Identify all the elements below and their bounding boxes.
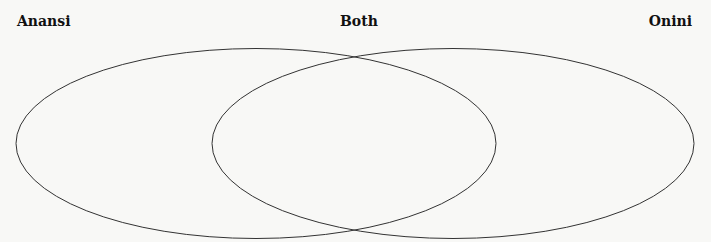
- ellipse-onini: [212, 49, 694, 239]
- venn-ellipses: [0, 0, 711, 242]
- ellipse-anansi: [16, 49, 496, 239]
